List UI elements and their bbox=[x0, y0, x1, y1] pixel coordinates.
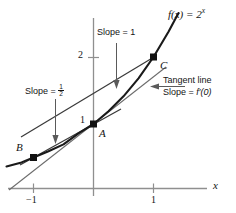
y-tick-label-1: 1 bbox=[80, 115, 85, 125]
x-axis-label: x bbox=[213, 180, 218, 191]
point-marker-b bbox=[30, 154, 37, 161]
point-label-a: A bbox=[99, 128, 106, 139]
tangent-slope-line: Slope = f′(0) bbox=[163, 87, 212, 99]
slope-half-label: Slope = 12 bbox=[25, 84, 64, 99]
tangent-slope-prefix: Slope = bbox=[163, 87, 196, 97]
x-tick-label-minus-1: −1 bbox=[26, 195, 37, 205]
point-marker-a bbox=[90, 121, 97, 128]
fraction-denominator: 2 bbox=[58, 90, 64, 98]
slope-one-text: Slope = 1 bbox=[97, 27, 135, 37]
y-tick-label-2: 2 bbox=[78, 50, 83, 60]
tangent-secant-figure: f(x) = 2x Slope = 1 Slope = 12 Tangent l… bbox=[0, 0, 236, 213]
fraction-one-half: 12 bbox=[58, 84, 64, 99]
point-marker-c bbox=[150, 54, 157, 61]
point-label-c: C bbox=[160, 60, 167, 71]
axes-group bbox=[8, 18, 207, 196]
arrow-slope-one-head bbox=[113, 80, 119, 89]
arrow-tangent-head bbox=[150, 83, 159, 89]
tangent-slope-value: f′(0) bbox=[196, 87, 211, 97]
slope-one-label: Slope = 1 bbox=[97, 28, 135, 37]
function-label-exponent: x bbox=[202, 6, 205, 15]
tangent-line-callout: Tangent line Slope = f′(0) bbox=[163, 75, 212, 98]
point-label-b: B bbox=[16, 142, 23, 153]
arrow-slope-half-head bbox=[52, 135, 58, 144]
function-label-text: f(x) = 2 bbox=[168, 8, 202, 20]
x-tick-label-1: 1 bbox=[151, 195, 156, 205]
tangent-line-title: Tangent line bbox=[163, 75, 212, 87]
fraction-numerator: 1 bbox=[58, 84, 64, 91]
function-label: f(x) = 2x bbox=[168, 7, 205, 20]
slope-half-prefix: Slope = bbox=[25, 86, 58, 96]
